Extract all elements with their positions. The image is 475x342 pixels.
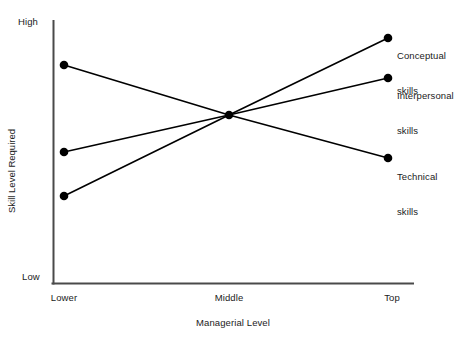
series-label-technical-line2: skills — [397, 206, 438, 218]
data-point-conceptual-top — [384, 34, 393, 43]
data-point-interpersonal-lower — [60, 148, 69, 157]
data-point-conceptual-lower — [60, 192, 69, 201]
series-label-technical: Technical skills — [397, 148, 438, 240]
series-label-technical-line1: Technical — [397, 171, 438, 183]
x-tick-label-lower: Lower — [24, 292, 104, 304]
data-point-technical-top — [384, 154, 393, 163]
series-label-interpersonal-line2: skills — [397, 125, 454, 137]
data-point-interpersonal-top — [384, 74, 393, 83]
series-label-conceptual-line1: Conceptual — [397, 50, 446, 62]
data-point-middle-crossing — [225, 111, 234, 120]
y-axis-low-label: Low — [22, 271, 40, 283]
series-label-interpersonal: Interpersonal skills — [397, 67, 454, 159]
x-axis-title: Managerial Level — [153, 317, 313, 329]
x-tick-label-middle: Middle — [189, 292, 269, 304]
x-tick-label-top: Top — [352, 292, 432, 304]
series-label-interpersonal-line1: Interpersonal — [397, 90, 454, 102]
y-axis-high-label: High — [18, 16, 38, 28]
data-point-technical-lower — [60, 61, 69, 70]
chart-figure: High Low Skill Level Required Lower Midd… — [0, 0, 475, 342]
series-line-technical — [64, 65, 388, 158]
